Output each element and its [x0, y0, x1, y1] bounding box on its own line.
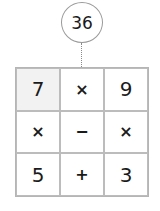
grid-cell-r1c2: × — [60, 68, 104, 111]
dotted-connector — [81, 43, 82, 67]
target-number: 36 — [71, 13, 93, 33]
grid-cell-r1c1: 7 — [16, 68, 60, 111]
grid-cell-r3c3: 3 — [104, 153, 148, 196]
grid-cell-r2c2: − — [60, 111, 104, 154]
grid-cell-r2c1: × — [16, 111, 60, 154]
target-number-circle: 36 — [61, 2, 103, 43]
grid-cell-r1c3: 9 — [104, 68, 148, 111]
grid-cell-r3c2: + — [60, 153, 104, 196]
puzzle-grid: 7 × 9 × − × 5 + 3 — [15, 67, 149, 197]
grid-cell-r3c1: 5 — [16, 153, 60, 196]
grid-cell-r2c3: × — [104, 111, 148, 154]
